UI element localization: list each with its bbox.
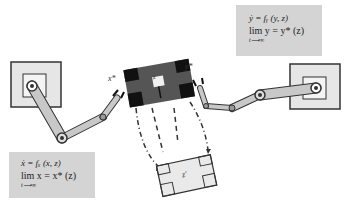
left-eq-limit-subscript: t⟶∞ <box>21 182 95 189</box>
right-eq-dynamics: ẏ = fᵧ (y, z) <box>249 12 322 24</box>
left-equation-box: ẋ = fₓ (x, z) lim x = x* (z) t⟶∞ <box>9 152 95 198</box>
label-x-star: x* <box>108 74 116 83</box>
right-eq-limit: lim y = y* (z) <box>249 24 322 37</box>
right-equation-box: ẏ = fᵧ (y, z) lim y = y* (z) t⟶∞ <box>236 5 322 56</box>
left-eq-limit: lim x = x* (z) <box>21 169 95 182</box>
right-eq-limit-subscript: t⟶∞ <box>249 37 322 44</box>
left-eq-dynamics: ẋ = fₓ (x, z) <box>21 157 95 169</box>
label-y-star: y* <box>185 62 193 71</box>
